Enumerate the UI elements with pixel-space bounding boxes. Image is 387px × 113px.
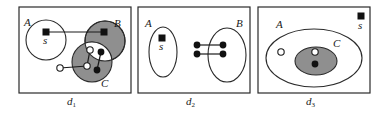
node-filled-bc: [98, 49, 105, 56]
label-c: C: [101, 77, 109, 89]
euler-diagram-figure: A s B C d1 A s B d2 A C s d3: [0, 0, 387, 113]
panel-d2: A s B d2: [138, 7, 250, 109]
label-s: s: [43, 34, 47, 46]
label-a: A: [275, 18, 283, 30]
label-b: B: [236, 17, 243, 29]
panel-d3: A C s d3: [258, 7, 370, 109]
panel-d1: A s B C d1: [19, 7, 131, 109]
label-b: B: [114, 17, 121, 29]
caption-d3-sub: 3: [312, 101, 316, 109]
node-open-c: [312, 49, 318, 55]
node-filled-outside-bottom: [194, 51, 201, 58]
node-open-bc: [87, 47, 93, 53]
node-filled-c: [312, 61, 319, 68]
caption-d1: d1: [67, 95, 77, 109]
label-a: A: [23, 16, 31, 28]
node-filled-b-top: [220, 42, 227, 49]
node-open-c: [84, 63, 90, 69]
caption-d3: d3: [306, 95, 316, 109]
label-s: s: [358, 19, 362, 31]
node-filled-c: [94, 67, 101, 74]
caption-d2: d2: [186, 95, 196, 109]
caption-d2-sub: 2: [192, 101, 196, 109]
set-b-ellipse: [208, 28, 246, 82]
label-c: C: [333, 37, 341, 49]
node-open-a: [278, 49, 284, 55]
node-open-outside: [57, 65, 63, 71]
node-filled-outside-top: [194, 42, 201, 49]
node-square-b: [101, 29, 108, 36]
label-a: A: [144, 17, 152, 29]
caption-d1-sub: 1: [73, 101, 77, 109]
label-s: s: [159, 40, 163, 52]
node-filled-b-bottom: [220, 51, 227, 58]
